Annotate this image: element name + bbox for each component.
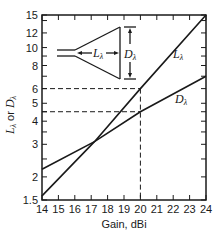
x-tick-label: 15 — [52, 203, 64, 215]
y-axis-title: Lλ or Dλ — [3, 95, 18, 135]
x-axis-title: Gain, dBi — [101, 218, 146, 230]
y-tick-label: 5 — [32, 97, 38, 109]
y-tick-label: 4 — [32, 115, 38, 127]
x-tick-label: 20 — [134, 203, 146, 215]
x-tick-label: 22 — [167, 203, 179, 215]
inset-label-L: Lλ — [92, 46, 104, 61]
y-tick-label: 15 — [26, 9, 38, 21]
x-tick-label: 19 — [118, 203, 130, 215]
y-tick-label: 2 — [32, 171, 38, 183]
y-tick-label: 3 — [32, 138, 38, 150]
x-tick-label: 24 — [200, 203, 212, 215]
y-tick-label: 12 — [26, 27, 38, 39]
x-tick-label: 18 — [101, 203, 113, 215]
x-tick-label: 16 — [69, 203, 81, 215]
series-label-L: Lλ — [172, 47, 184, 62]
series-label-D: Dλ — [174, 92, 188, 107]
x-axis-tick-labels: 1415161718192021222324 — [36, 203, 212, 215]
chart: 1415161718192021222324 1.5234568101215 L… — [0, 0, 222, 240]
y-axis-tick-labels: 1.5234568101215 — [23, 9, 38, 206]
y-tick-label: 10 — [26, 42, 38, 54]
y-tick-label: 8 — [32, 60, 38, 72]
series-line-D — [42, 76, 206, 169]
inset-label-D: Dλ — [123, 47, 137, 62]
y-tick-label: 6 — [32, 83, 38, 95]
x-tick-label: 17 — [85, 203, 97, 215]
y-tick-label: 1.5 — [23, 194, 38, 206]
x-tick-label: 21 — [151, 203, 163, 215]
x-tick-label: 23 — [183, 203, 195, 215]
